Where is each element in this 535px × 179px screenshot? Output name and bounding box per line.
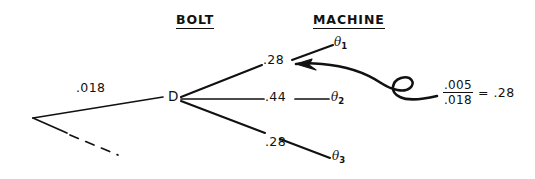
theta-subscript-1: 1 <box>341 41 347 51</box>
branch-value-3: .28 <box>265 136 286 149</box>
callout-numerator: .005 <box>443 79 473 93</box>
callout-denominator: .018 <box>444 93 472 106</box>
decision-node-d: D <box>168 90 179 104</box>
branch-outcome-theta-3: θ3 <box>332 150 345 165</box>
branch-outcome-theta-2: θ2 <box>331 91 344 106</box>
branch-line-3-left <box>181 101 265 133</box>
incoming-branch-dashed <box>70 135 118 155</box>
branch-line-1-tip <box>292 45 333 60</box>
theta-subscript-2: 2 <box>338 96 344 106</box>
callout-equation: .005 .018 = .28 <box>443 79 515 106</box>
callout-result: .28 <box>493 85 514 100</box>
diagram-canvas: BOLT MACHINE .018 D .28 θ1 .44 θ2 .28 θ3… <box>0 0 535 179</box>
column-header-machine: MACHINE <box>313 14 385 29</box>
branch-outcome-theta-1: θ1 <box>334 36 347 51</box>
branch-line-1 <box>181 65 262 97</box>
incoming-branch-value: .018 <box>76 82 105 95</box>
column-header-bolt: BOLT <box>176 14 214 29</box>
incoming-branch-line <box>33 97 163 118</box>
callout-fraction: .005 .018 <box>443 79 473 106</box>
branch-line-3-right <box>280 139 330 158</box>
branch-value-2: .44 <box>265 91 286 104</box>
callout-equals-sign: = <box>478 85 488 100</box>
incoming-branch-solid-stub <box>33 118 67 133</box>
callout-curve <box>296 63 437 99</box>
branch-value-1: .28 <box>263 54 284 67</box>
theta-subscript-3: 3 <box>339 155 345 165</box>
